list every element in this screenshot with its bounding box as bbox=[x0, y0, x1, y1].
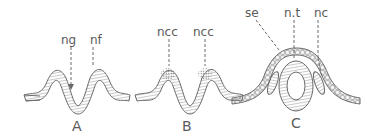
panel-c-drawing bbox=[232, 20, 360, 111]
label-nt: n.t bbox=[284, 7, 300, 19]
ncc-cluster-right bbox=[198, 68, 212, 80]
panel-label-c: C bbox=[291, 116, 301, 130]
neural-tube-lumen bbox=[287, 72, 305, 100]
se-leader-line bbox=[256, 20, 279, 50]
label-ng: ng bbox=[61, 34, 76, 46]
label-nc: nc bbox=[314, 7, 328, 19]
panel-label-a: A bbox=[72, 119, 82, 133]
neural-tube-diagram: ng nf A ncc ncc B se n.t nc C bbox=[0, 0, 367, 139]
label-ncc-left: ncc bbox=[157, 26, 178, 38]
label-nf: nf bbox=[90, 34, 102, 46]
label-se: se bbox=[245, 7, 259, 19]
label-ncc-right: ncc bbox=[193, 26, 214, 38]
panel-label-b: B bbox=[182, 119, 192, 133]
panel-a-drawing bbox=[24, 47, 130, 114]
ncc-cluster-left bbox=[161, 68, 175, 80]
panel-b-drawing bbox=[135, 39, 243, 114]
